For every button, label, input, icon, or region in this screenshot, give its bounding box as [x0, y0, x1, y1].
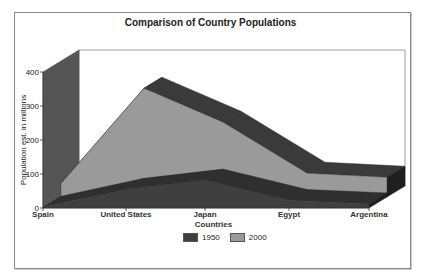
y-tick-label: 100: [26, 170, 40, 179]
legend: 1950 2000: [183, 233, 277, 242]
y-tick-label: 200: [26, 136, 40, 145]
x-axis-label: Countries: [0, 220, 421, 229]
legend-label-1950: 1950: [202, 233, 220, 242]
x-tick-label: Argentina: [350, 210, 388, 219]
x-tick-label: Japan: [193, 210, 216, 219]
x-tick-label: Egypt: [278, 210, 301, 219]
legend-swatch-1950: [183, 233, 198, 242]
y-tick-label: 400: [26, 68, 40, 77]
legend-label-2000: 2000: [249, 233, 267, 242]
x-tick-label: United States: [100, 210, 152, 219]
legend-item-1950: 1950: [183, 233, 220, 242]
y-axis-label: Population est. in millions: [19, 95, 28, 185]
legend-swatch-2000: [230, 233, 245, 242]
legend-item-2000: 2000: [230, 233, 267, 242]
y-tick-label: 300: [26, 102, 40, 111]
x-tick-label: Spain: [32, 210, 54, 219]
